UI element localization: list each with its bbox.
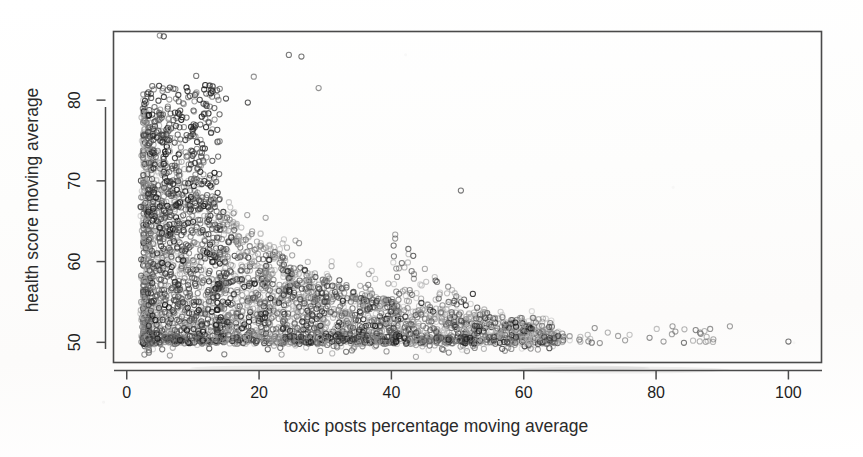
data-point: [405, 260, 410, 265]
data-point: [298, 265, 303, 270]
data-point: [223, 96, 228, 101]
data-point: [697, 339, 702, 344]
data-point: [194, 146, 199, 151]
plot-canvas: 020406080100 toxic posts percentage movi…: [0, 0, 863, 457]
x-tick-label: 80: [647, 384, 665, 401]
data-point: [263, 253, 268, 258]
x-axis: 020406080100 toxic posts percentage movi…: [114, 371, 822, 437]
data-point: [708, 326, 713, 331]
data-point: [682, 327, 687, 332]
data-point: [394, 274, 399, 279]
data-point: [212, 117, 217, 122]
data-point: [318, 348, 323, 353]
data-point: [481, 346, 486, 351]
data-point: [197, 248, 202, 253]
data-point: [184, 85, 189, 90]
data-point: [222, 352, 227, 357]
data-point: [470, 291, 475, 296]
x-tick-label: 40: [383, 384, 401, 401]
data-point: [413, 354, 418, 359]
data-point: [654, 326, 659, 331]
data-point: [228, 205, 233, 210]
data-point: [245, 100, 250, 105]
y-tick-label: 60: [66, 253, 83, 271]
data-point: [290, 253, 295, 258]
data-point: [529, 309, 534, 314]
data-point: [446, 350, 451, 355]
x-tick-labels: 020406080100: [122, 384, 802, 401]
data-point: [434, 279, 439, 284]
data-point: [330, 351, 335, 356]
data-point: [192, 99, 197, 104]
data-point: [202, 213, 207, 218]
data-point: [284, 245, 289, 250]
data-point: [693, 328, 698, 333]
x-tick-label: 100: [775, 384, 802, 401]
data-point: [215, 190, 220, 195]
data-point: [244, 290, 249, 295]
data-point: [350, 306, 355, 311]
data-point: [391, 243, 396, 248]
data-point: [316, 85, 321, 90]
data-point: [623, 338, 628, 343]
data-point: [402, 265, 407, 270]
data-point: [669, 332, 674, 337]
data-point: [293, 238, 298, 243]
data-point: [277, 282, 282, 287]
data-point: [265, 347, 270, 352]
data-point: [210, 158, 215, 163]
y-tick-label: 80: [66, 91, 83, 109]
data-point: [366, 271, 371, 276]
data-point: [673, 329, 678, 334]
y-tick-label: 70: [66, 172, 83, 190]
data-point: [251, 74, 256, 79]
data-point: [391, 260, 396, 265]
data-point: [279, 352, 284, 357]
data-point: [414, 291, 419, 296]
data-point: [160, 347, 165, 352]
data-point: [194, 73, 199, 78]
data-point: [615, 333, 620, 338]
data-point: [458, 188, 463, 193]
data-point: [424, 279, 429, 284]
data-point: [157, 83, 162, 88]
data-point: [690, 338, 695, 343]
data-point: [203, 302, 208, 307]
data-point: [422, 266, 427, 271]
data-point: [239, 225, 244, 230]
data-point: [167, 97, 172, 102]
data-points-layer: [138, 33, 791, 360]
data-point: [195, 291, 200, 296]
data-point: [175, 132, 180, 137]
data-point: [263, 215, 268, 220]
data-point: [228, 262, 233, 267]
data-point: [406, 252, 411, 257]
data-point: [373, 276, 378, 281]
data-point: [670, 324, 675, 329]
data-point: [207, 346, 212, 351]
x-axis-title: toxic posts percentage moving average: [284, 416, 588, 436]
x-tick-label: 60: [515, 384, 533, 401]
data-point: [245, 212, 250, 217]
data-point: [369, 268, 374, 273]
data-point: [299, 54, 304, 59]
data-point: [286, 52, 291, 57]
data-point: [386, 281, 391, 286]
data-point: [444, 291, 449, 296]
data-point: [247, 244, 252, 249]
data-point: [226, 200, 231, 205]
data-point: [296, 241, 301, 246]
data-point: [433, 278, 438, 283]
data-point: [358, 283, 363, 288]
data-point: [509, 346, 514, 351]
data-point: [592, 326, 597, 331]
data-point: [406, 246, 411, 251]
data-point: [727, 324, 732, 329]
data-point: [585, 332, 590, 337]
data-point: [605, 330, 610, 335]
data-point: [330, 315, 335, 320]
y-tick-labels: 50607080: [66, 91, 83, 351]
y-axis-title: health score moving average: [22, 88, 42, 313]
data-point: [391, 254, 396, 259]
y-tick-marks: [97, 100, 106, 342]
